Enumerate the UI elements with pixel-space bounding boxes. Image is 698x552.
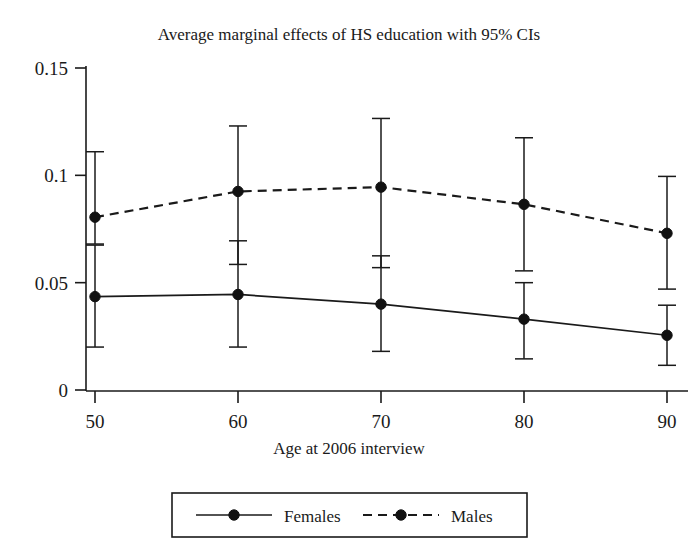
legend-label: Females: [284, 507, 341, 526]
series-males: [86, 118, 676, 289]
x-tick-label: 90: [658, 411, 677, 432]
data-point-marker: [519, 199, 529, 209]
y-tick-label: 0.1: [44, 165, 68, 186]
y-tick-label: 0: [59, 380, 69, 401]
data-point-marker: [376, 299, 386, 309]
data-point-marker: [662, 330, 672, 340]
x-tick-label: 50: [86, 411, 105, 432]
chart-title: Average marginal effects of HS education…: [158, 25, 540, 44]
data-point-marker: [519, 314, 529, 324]
series-layer: [86, 118, 676, 365]
chart-legend: FemalesMales: [172, 493, 527, 537]
data-point-marker: [376, 182, 386, 192]
data-point-marker: [233, 289, 243, 299]
data-point-marker: [90, 212, 100, 222]
chart-canvas: Average marginal effects of HS education…: [0, 0, 698, 552]
x-tick-label: 70: [372, 411, 391, 432]
data-point-marker: [662, 228, 672, 238]
y-tick-label: 0.15: [35, 58, 68, 79]
data-point-marker: [90, 291, 100, 301]
x-axis-ticks: 5060708090: [86, 391, 677, 432]
x-tick-label: 80: [515, 411, 534, 432]
legend-marker-swatch: [396, 510, 406, 520]
x-axis-title: Age at 2006 interview: [273, 439, 425, 458]
data-point-marker: [233, 186, 243, 196]
y-tick-label: 0.05: [35, 273, 68, 294]
legend-label: Males: [451, 507, 493, 526]
chart-figure: Average marginal effects of HS education…: [0, 0, 698, 552]
y-axis-ticks: 00.050.10.15: [35, 58, 86, 401]
x-tick-label: 60: [229, 411, 248, 432]
legend-marker-swatch: [229, 510, 239, 520]
